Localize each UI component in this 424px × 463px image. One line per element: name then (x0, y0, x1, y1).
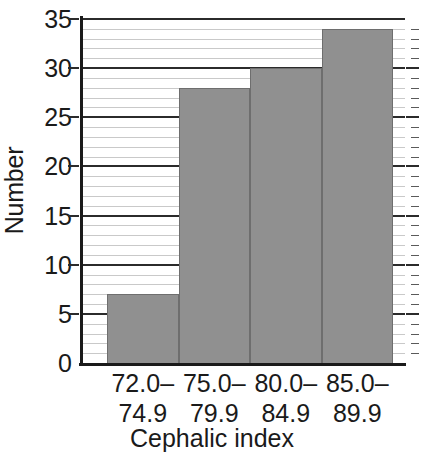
right-tick-minor (411, 334, 419, 335)
x-tick-label-line1: 75.0– (183, 369, 246, 397)
x-tick-label: 85.0–89.9 (322, 368, 394, 428)
right-tick-minor (411, 176, 419, 177)
right-tick-minor (411, 147, 419, 148)
right-tick-minor (411, 235, 419, 236)
right-tick-minor (411, 58, 419, 59)
right-tick-minor (411, 225, 419, 226)
y-tick-mark (68, 313, 79, 315)
right-tick-minor (411, 107, 419, 108)
y-axis-spine (80, 16, 83, 366)
right-tick-minor (411, 206, 419, 207)
bar-series (80, 19, 405, 363)
right-tick-minor (411, 127, 419, 128)
right-tick-minor (411, 196, 419, 197)
x-axis-title: Cephalic index (0, 424, 424, 453)
right-tick-major (406, 165, 419, 167)
right-tick-major (406, 67, 419, 69)
right-tick-minor (411, 294, 419, 295)
x-tick-label: 80.0–84.9 (250, 368, 322, 428)
right-tick-minor (411, 255, 419, 256)
right-tick-minor (411, 343, 419, 344)
x-tick-label-line1: 85.0– (326, 369, 389, 397)
right-tick-minor (411, 275, 419, 276)
right-tick-minor (411, 88, 419, 89)
right-tick-minor (411, 137, 419, 138)
right-tick-minor (411, 324, 419, 325)
bar (322, 29, 394, 363)
right-tick-major (406, 215, 419, 217)
right-tick-minor (411, 48, 419, 49)
x-tick-label: 75.0–79.9 (179, 368, 251, 428)
bar (179, 88, 251, 363)
right-tick-minor (411, 78, 419, 79)
right-tick-minor (411, 245, 419, 246)
y-tick-mark (68, 264, 79, 266)
right-tick-minor (411, 284, 419, 285)
left-axis-ticks (68, 19, 80, 363)
right-tick-minor (411, 186, 419, 187)
y-tick-mark (68, 18, 79, 20)
x-tick-label-line1: 72.0– (111, 369, 174, 397)
right-tick-major (406, 116, 419, 118)
x-tick-label-line1: 80.0– (254, 369, 317, 397)
right-tick-minor (411, 98, 419, 99)
y-tick-mark (68, 67, 79, 69)
y-tick-mark (68, 215, 79, 217)
right-tick-minor (411, 39, 419, 40)
plot-area (80, 19, 405, 363)
y-tick-mark (68, 116, 79, 118)
histogram-figure: Number 05101520253035 72.0–74.975.0–79.9… (0, 0, 424, 463)
right-axis-ticks (405, 19, 419, 363)
right-tick-minor (411, 157, 419, 158)
right-tick-minor (411, 353, 419, 354)
bar (250, 68, 322, 363)
right-tick-minor (411, 29, 419, 30)
y-tick-mark (68, 165, 79, 167)
right-tick-minor (411, 304, 419, 305)
bar (107, 294, 179, 363)
x-axis-spine (79, 363, 406, 366)
right-tick-major (406, 313, 419, 315)
right-tick-major (406, 264, 419, 266)
x-tick-label: 72.0–74.9 (107, 368, 179, 428)
